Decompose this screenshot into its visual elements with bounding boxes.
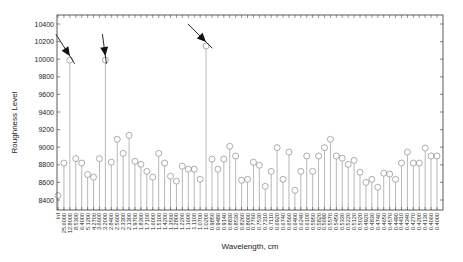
- arrow-icon: [100, 34, 108, 64]
- stem-point: [357, 169, 363, 210]
- stem-point: [321, 145, 327, 210]
- stem-point: [404, 149, 410, 210]
- circle-marker-icon: [96, 156, 102, 162]
- circle-marker-icon: [126, 132, 132, 138]
- circle-marker-icon: [79, 160, 85, 166]
- circle-marker-icon: [369, 176, 375, 182]
- stem-point: [138, 161, 144, 210]
- x-axis-label: Wavelength, cm: [221, 242, 278, 251]
- stem-point: [209, 156, 215, 210]
- circle-marker-icon: [245, 176, 251, 182]
- circle-marker-icon: [422, 145, 428, 151]
- stem-point: [310, 168, 316, 210]
- stem-point: [428, 153, 434, 210]
- stem-point: [298, 168, 304, 210]
- stem-point: [262, 183, 268, 210]
- circle-marker-icon: [150, 174, 156, 180]
- stem-point: [221, 156, 227, 210]
- y-tick-label: 8400: [38, 197, 54, 204]
- circle-marker-icon: [345, 161, 351, 167]
- circle-marker-icon: [393, 176, 399, 182]
- circle-marker-icon: [85, 171, 91, 177]
- circle-marker-icon: [321, 145, 327, 151]
- stem-point: [398, 160, 404, 210]
- arrow-annotations: [56, 24, 213, 64]
- stem-point: [114, 136, 120, 210]
- y-tick-label: 10400: [35, 21, 55, 28]
- circle-marker-icon: [185, 166, 191, 172]
- circle-marker-icon: [286, 149, 292, 155]
- x-tick-label: 0.4000: [434, 213, 440, 230]
- chart-canvas: 8400860088009000920094009600980010000102…: [0, 0, 463, 262]
- circle-marker-icon: [73, 156, 79, 162]
- stem-point: [67, 57, 73, 210]
- circle-marker-icon: [120, 150, 126, 156]
- stem-point: [85, 171, 91, 210]
- circle-marker-icon: [227, 143, 233, 149]
- circle-marker-icon: [239, 177, 245, 183]
- circle-marker-icon: [256, 162, 262, 168]
- circle-marker-icon: [316, 153, 322, 159]
- y-tick-label: 8800: [38, 161, 54, 168]
- circle-marker-icon: [55, 193, 61, 199]
- stem-point: [79, 160, 85, 210]
- stem-point: [108, 159, 114, 210]
- y-tick-label: 9600: [38, 91, 54, 98]
- stem-point: [144, 168, 150, 210]
- circle-marker-icon: [434, 153, 440, 159]
- circle-marker-icon: [410, 160, 416, 166]
- stem-point: [292, 187, 298, 210]
- y-tick-label: 9000: [38, 144, 54, 151]
- circle-marker-icon: [191, 166, 197, 172]
- stem-point: [410, 160, 416, 210]
- circle-marker-icon: [162, 160, 168, 166]
- circle-marker-icon: [339, 155, 345, 161]
- circle-marker-icon: [197, 176, 203, 182]
- stem-point: [245, 176, 251, 210]
- circle-marker-icon: [233, 153, 239, 159]
- stem-point: [304, 153, 310, 210]
- stem-point: [274, 145, 280, 210]
- stem-point: [162, 160, 168, 210]
- y-tick-label: 10200: [35, 38, 55, 45]
- stem-point: [280, 176, 286, 210]
- stem-point: [363, 179, 369, 210]
- stem-point: [120, 150, 126, 210]
- stem-point: [369, 176, 375, 210]
- y-tick-label: 10000: [35, 56, 55, 63]
- stem-point: [61, 160, 67, 210]
- stem-point: [239, 177, 245, 210]
- stem-point: [91, 174, 97, 210]
- circle-marker-icon: [132, 158, 138, 164]
- circle-marker-icon: [333, 153, 339, 159]
- circle-marker-icon: [108, 159, 114, 165]
- stem-point: [250, 159, 256, 210]
- stem-point: [191, 166, 197, 210]
- stem-point: [215, 166, 221, 210]
- stem-point: [416, 160, 422, 210]
- stem-point: [102, 57, 108, 210]
- circle-marker-icon: [179, 163, 185, 169]
- stem-point: [179, 163, 185, 210]
- y-axis-ticks: 8400860088009000920094009600980010000102…: [35, 21, 443, 204]
- stem-point: [286, 149, 292, 210]
- stem-point: [333, 153, 339, 210]
- circle-marker-icon: [428, 153, 434, 159]
- circle-marker-icon: [274, 145, 280, 151]
- circle-marker-icon: [298, 168, 304, 174]
- stem-point: [126, 132, 132, 210]
- arrow-icon: [188, 24, 212, 48]
- circle-marker-icon: [375, 184, 381, 190]
- circle-marker-icon: [327, 136, 333, 142]
- circle-marker-icon: [138, 161, 144, 167]
- circle-marker-icon: [61, 160, 67, 166]
- stem-point: [434, 153, 440, 210]
- circle-marker-icon: [209, 156, 215, 162]
- stem-point: [381, 170, 387, 210]
- y-tick-label: 9400: [38, 109, 54, 116]
- stem-point: [345, 161, 351, 210]
- circle-marker-icon: [114, 136, 120, 142]
- circle-marker-icon: [310, 168, 316, 174]
- stem-point: [387, 171, 393, 210]
- y-tick-label: 9800: [38, 73, 54, 80]
